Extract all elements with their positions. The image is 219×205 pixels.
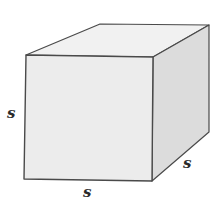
cube-front-face <box>24 55 153 181</box>
width-label: s <box>83 185 91 200</box>
cube-diagram: s s s <box>0 0 219 205</box>
cube-drawing <box>0 0 219 205</box>
depth-label: s <box>183 156 191 171</box>
height-label: s <box>7 106 15 121</box>
